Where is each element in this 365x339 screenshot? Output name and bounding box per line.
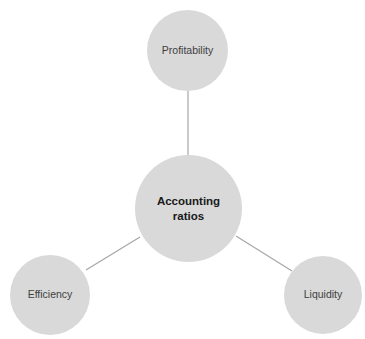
connector-right [236,236,292,271]
accounting-ratios-diagram: Profitability Accounting ratios Efficien… [0,0,365,339]
center-node-label: Accounting ratios [154,194,224,223]
node-liquidity: Liquidity [284,256,362,334]
node-accounting-ratios: Accounting ratios [135,155,242,262]
node-efficiency: Efficiency [10,255,90,335]
node-label: Profitability [162,44,213,57]
node-label: Liquidity [304,288,343,301]
node-profitability: Profitability [147,10,228,91]
node-label: Efficiency [28,288,73,301]
connector-left [86,237,140,270]
